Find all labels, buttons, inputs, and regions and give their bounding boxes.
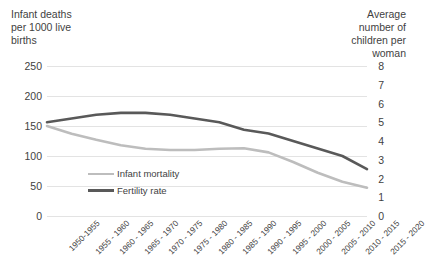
left-axis-tick: 100: [12, 151, 42, 162]
right-axis-tick-labels: 876543210: [370, 66, 386, 216]
legend-label: Fertility rate: [117, 185, 167, 197]
right-axis-tick: 3: [370, 155, 384, 166]
left-axis-tick: 200: [12, 91, 42, 102]
right-axis-tick: 2: [370, 174, 384, 185]
legend-label: Infant mortality: [117, 168, 179, 180]
left-axis-tick: 250: [12, 61, 42, 72]
left-axis-title: Infant deaths per 1000 live births: [11, 8, 116, 47]
chart-legend: Infant mortalityFertility rate: [88, 165, 179, 199]
left-axis-tick: 150: [12, 121, 42, 132]
legend-item[interactable]: Fertility rate: [88, 182, 179, 199]
legend-item[interactable]: Infant mortality: [88, 165, 179, 182]
right-axis-tick: 4: [370, 136, 384, 147]
right-axis-tick: 1: [370, 192, 384, 203]
right-axis-tick: 6: [370, 99, 384, 110]
left-axis-tick: 0: [12, 211, 42, 222]
gridline: [47, 216, 367, 217]
left-axis-tick: 50: [12, 181, 42, 192]
fertility-rate-line: [47, 113, 367, 169]
legend-swatch: [88, 189, 114, 192]
right-axis-tick: 5: [370, 117, 384, 128]
x-axis-tick-labels: 1950-19551955 - 19601960 - 19651965 - 19…: [47, 218, 367, 275]
legend-swatch: [88, 173, 114, 175]
right-axis-tick: 8: [370, 61, 384, 72]
left-axis-tick-labels: 250200150100500: [8, 66, 42, 216]
right-axis-title: Average number of children per woman: [298, 8, 406, 60]
right-axis-tick: 7: [370, 80, 384, 91]
